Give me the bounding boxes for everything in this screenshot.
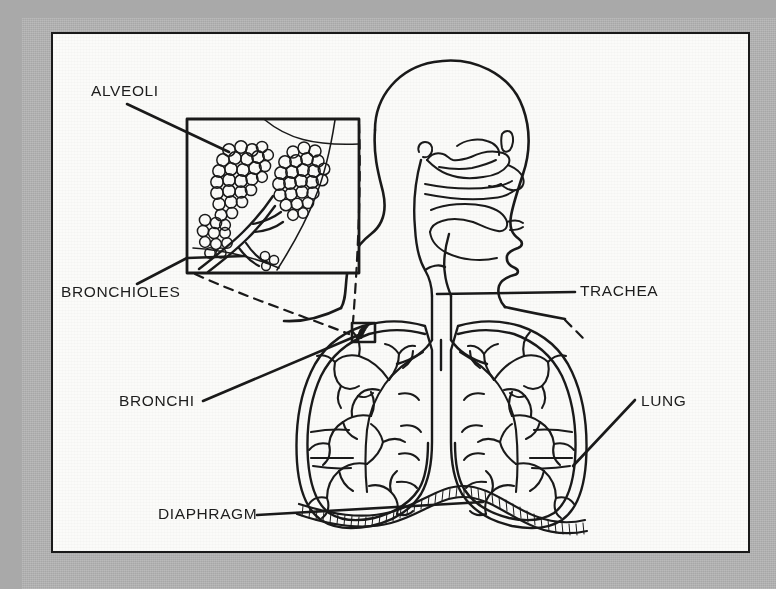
respiratory-diagram: ALVEOLI BRONCHIOLES BRONCHI DIAPHRAGM TR… bbox=[53, 34, 748, 551]
label-bronchioles: BRONCHIOLES bbox=[61, 283, 180, 300]
label-trachea: TRACHEA bbox=[580, 282, 658, 299]
label-bronchi: BRONCHI bbox=[119, 392, 195, 409]
figure-plate: ALVEOLI BRONCHIOLES BRONCHI DIAPHRAGM TR… bbox=[51, 32, 750, 553]
carina bbox=[397, 340, 487, 370]
oral-cavity-and-palate bbox=[425, 181, 523, 260]
leader-bronchi bbox=[203, 334, 361, 401]
nasal-cavity bbox=[418, 131, 523, 190]
leader-diaphragm bbox=[257, 502, 483, 515]
leader-lung bbox=[573, 400, 635, 466]
shoulder-line bbox=[284, 307, 565, 321]
leader-trachea bbox=[437, 292, 575, 294]
label-diaphragm: DIAPHRAGM bbox=[158, 505, 257, 522]
label-lung: LUNG bbox=[641, 392, 686, 409]
figure-page: ALVEOLI BRONCHIOLES BRONCHI DIAPHRAGM TR… bbox=[0, 0, 776, 589]
label-alveoli: ALVEOLI bbox=[91, 82, 159, 99]
